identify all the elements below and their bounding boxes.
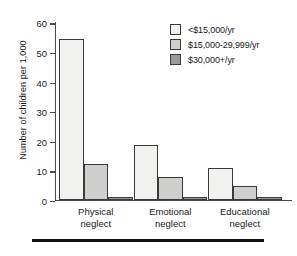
bar	[108, 197, 133, 200]
bar-chart-figure: Number of children per 1,000 01020304050…	[0, 0, 297, 256]
legend-item[interactable]: <$15,000/yr	[170, 23, 259, 37]
bar	[233, 186, 258, 199]
legend-swatch-icon	[170, 54, 181, 65]
chart-legend: <$15,000/yr$15,000-29,999/yr$30,000+/yr	[170, 23, 259, 68]
bar	[208, 168, 233, 200]
y-axis-tick-label: 0	[42, 196, 47, 207]
legend-label: <$15,000/yr	[188, 25, 235, 35]
y-axis-tick-label: 20	[36, 136, 47, 147]
legend-label: $30,000+/yr	[188, 55, 235, 65]
y-axis-tick-label: 30	[36, 107, 47, 118]
bar	[158, 177, 183, 200]
bar	[84, 164, 109, 200]
bar	[59, 39, 84, 199]
x-axis-category-label-line: Educational	[195, 206, 295, 218]
x-axis-category-label-line: neglect	[195, 218, 295, 230]
bar	[257, 197, 282, 199]
y-axis-tick-label: 60	[36, 18, 47, 29]
bottom-divider-rule	[32, 239, 264, 242]
bar	[134, 145, 159, 200]
legend-label: $15,000-29,999/yr	[188, 40, 259, 50]
x-axis-category-label: Educationalneglect	[195, 206, 295, 229]
bar-group	[59, 22, 133, 200]
y-axis-tick	[50, 201, 55, 202]
y-axis-tick-label: 40	[36, 77, 47, 88]
legend-swatch-icon	[170, 39, 181, 50]
x-axis-line	[55, 200, 292, 201]
legend-item[interactable]: $15,000-29,999/yr	[170, 38, 259, 52]
y-axis-tick-label: 50	[36, 48, 47, 59]
y-axis-title: Number of children per 1,000	[18, 15, 28, 185]
legend-item[interactable]: $30,000+/yr	[170, 53, 259, 67]
bar	[183, 197, 208, 199]
y-axis-tick-label: 10	[36, 166, 47, 177]
legend-swatch-icon	[170, 24, 181, 35]
